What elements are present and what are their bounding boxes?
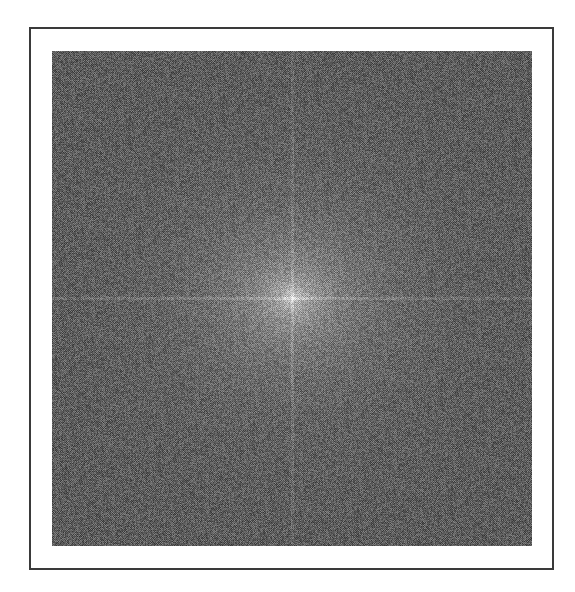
- fft-spectrum-image: [52, 51, 532, 546]
- spectrum-canvas: [52, 51, 532, 546]
